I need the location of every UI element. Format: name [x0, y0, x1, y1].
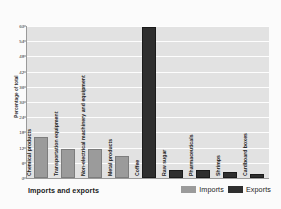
- bar: [142, 27, 156, 178]
- y-axis-tick-label: 18: [2, 130, 24, 135]
- y-axis-tick-label: 0: [2, 176, 24, 181]
- y-axis-tick-label: 54: [2, 39, 24, 44]
- bar-category-label: Raw sugar: [161, 150, 167, 176]
- legend-swatch-imports: [181, 186, 196, 193]
- x-axis-title: Imports and exports: [28, 186, 99, 195]
- x-axis-line: [26, 178, 269, 179]
- y-axis-tick-label: 24: [2, 115, 24, 120]
- legend: Imports Exports: [181, 185, 271, 194]
- bar-category-label: Non-electrical machinery and equipment: [80, 75, 86, 176]
- legend-item-exports: Exports: [228, 185, 271, 194]
- bar-category-label: Chemical products: [26, 129, 32, 176]
- bar-category-label: Coffee: [134, 160, 140, 176]
- y-axis-tick-label: 12: [2, 145, 24, 150]
- bar-category-label: Transportation equipment: [53, 112, 59, 176]
- bar-category-label: Shrimps: [215, 155, 221, 176]
- y-axis-tick-label: 48: [2, 54, 24, 59]
- bar: [223, 172, 237, 178]
- bars-layer: Chemical productsTransportation equipmen…: [26, 26, 269, 178]
- y-axis-tick-label: 36: [2, 84, 24, 89]
- bar-category-label: Cardboard boxes: [242, 133, 248, 176]
- bar-category-label: Metal products: [107, 139, 113, 176]
- y-axis-tick-label: 42: [2, 69, 24, 74]
- legend-label-imports: Imports: [199, 185, 224, 194]
- bar: [88, 149, 102, 178]
- legend-swatch-exports: [228, 186, 243, 193]
- bar: [196, 170, 210, 178]
- legend-label-exports: Exports: [246, 185, 271, 194]
- bar-chart: Percentage of total 06121824303642485460…: [0, 0, 281, 209]
- y-axis-tick-labels: 06121824303642485460: [0, 26, 24, 178]
- bar-category-label: Pharmaceuticals: [188, 134, 194, 176]
- bar: [34, 137, 48, 178]
- legend-item-imports: Imports: [181, 185, 224, 194]
- bar: [250, 174, 264, 178]
- y-axis-tick-label: 60: [2, 24, 24, 29]
- bar: [169, 170, 183, 178]
- y-axis-tick-label: 30: [2, 100, 24, 105]
- bar: [61, 149, 75, 178]
- bar: [115, 156, 129, 178]
- y-axis-tick-label: 6: [2, 160, 24, 165]
